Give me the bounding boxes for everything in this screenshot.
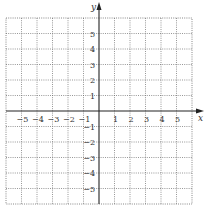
y-tick-label: −3 <box>83 154 95 163</box>
y-tick-label: 1 <box>90 92 95 101</box>
y-tick-label: −5 <box>83 185 95 194</box>
x-tick-label: −5 <box>17 115 29 124</box>
y-axis-arrow-icon <box>97 2 102 10</box>
y-axis-label: y <box>90 2 97 12</box>
x-tick-label: 2 <box>128 115 133 124</box>
x-tick-labels: −5−4−3−2−112345 <box>17 115 180 124</box>
y-tick-label: −1 <box>83 123 95 132</box>
x-tick-label: −4 <box>32 115 44 124</box>
axes <box>6 2 204 204</box>
y-tick-label: 4 <box>90 45 95 54</box>
x-tick-label: −2 <box>63 115 75 124</box>
y-tick-label: −2 <box>83 138 95 147</box>
x-tick-label: 1 <box>113 115 118 124</box>
y-tick-label: 5 <box>90 30 95 39</box>
y-tick-label: −4 <box>83 169 95 178</box>
coordinate-plane: −5−4−3−2−112345 54321−1−2−3−4−5 x y <box>0 0 205 205</box>
x-tick-label: 5 <box>175 115 180 124</box>
x-tick-label: 4 <box>159 115 164 124</box>
y-tick-label: 3 <box>90 61 95 70</box>
x-tick-label: −3 <box>48 115 60 124</box>
y-tick-label: 2 <box>90 76 95 85</box>
x-axis-label: x <box>198 113 203 123</box>
x-tick-label: 3 <box>144 115 149 124</box>
